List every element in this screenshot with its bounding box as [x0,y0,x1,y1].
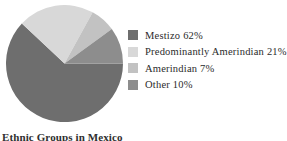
legend-item-predominantly-amerindian[interactable]: Predominantly Amerindian 21% [128,44,287,61]
legend-item-mestizo[interactable]: Mestizo 62% [128,27,287,44]
legend-swatch-mestizo [128,30,138,40]
chart-legend: Mestizo 62% Predominantly Amerindian 21%… [128,27,287,93]
pie-svg [6,5,123,122]
legend-swatch-amerindian [128,63,138,73]
pie-chart-graphic [6,5,123,122]
pie-chart-figure: Mestizo 62% Predominantly Amerindian 21%… [0,0,287,141]
legend-label-amerindian: Amerindian 7% [145,63,215,74]
legend-swatch-predominantly-amerindian [128,47,138,57]
chart-caption: Ethnic Groups in Mexico [2,131,182,141]
legend-label-other: Other 10% [145,79,193,90]
legend-label-predominantly-amerindian: Predominantly Amerindian 21% [145,46,287,57]
pie-slice-group [6,5,123,122]
chart-caption-text: Ethnic Groups in Mexico [2,131,182,141]
legend-label-mestizo: Mestizo 62% [145,30,203,41]
legend-swatch-other [128,80,138,90]
legend-item-amerindian[interactable]: Amerindian 7% [128,60,287,77]
legend-item-other[interactable]: Other 10% [128,77,287,94]
